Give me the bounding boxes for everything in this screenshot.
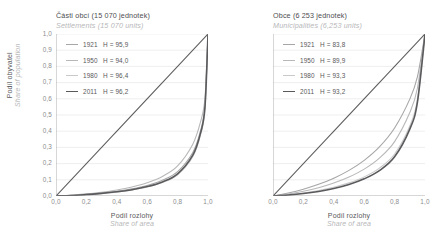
y-tick-label: 0,7 (36, 79, 52, 85)
y-tick-label: 0,6 (36, 96, 52, 102)
x-tick-label: 0,2 (294, 199, 312, 205)
x-axis-label-cs-left: Podíl rozlohy (56, 212, 208, 219)
legend-year-label: 2011 (300, 88, 320, 95)
y-axis-label-cs: Podíl obyvatel (6, 15, 13, 135)
legend-h-value: H = 94,0 (103, 57, 128, 64)
legend-item-1921: 1921H = 83,8 (283, 39, 393, 50)
legend-h-value: H = 96,2 (103, 88, 128, 95)
x-axis-ticks-right: 0,00,20,40,60,81,0 (273, 199, 425, 211)
x-axis-label-right: Podíl rozlohy Share of area (273, 212, 425, 227)
legend-year-label: 1950 (83, 57, 103, 64)
legend-item-1950: 1950H = 89,9 (283, 55, 393, 66)
x-axis-label-cs-right: Podíl rozlohy (273, 212, 425, 219)
legend-year-label: 1950 (300, 57, 320, 64)
legend-swatch-icon (66, 91, 78, 92)
x-tick-label: 1,0 (199, 199, 217, 205)
y-axis-ticks-left: 0,00,10,20,30,40,50,60,70,80,91,0 (32, 34, 52, 196)
lorenz-curve-figure: Části obcí (15 070 jednotek) Settlements… (0, 0, 434, 240)
legend-right: 1921H = 83,81950H = 89,91980H = 93,32011… (283, 39, 393, 101)
legend-swatch-icon (283, 44, 295, 45)
panel-settlements: Části obcí (15 070 jednotek) Settlements… (0, 0, 217, 240)
panel-title-en-right: Municipalities (6,253 units) (273, 21, 431, 30)
legend-swatch-icon (66, 44, 78, 45)
x-tick-label: 1,0 (416, 199, 434, 205)
legend-swatch-icon (283, 60, 295, 61)
panel-municipalities: Obce (6 253 jednotek) Municipalities (6,… (217, 0, 434, 240)
legend-year-label: 1980 (83, 72, 103, 79)
legend-h-value: H = 89,9 (320, 57, 345, 64)
x-tick-label: 0,4 (325, 199, 343, 205)
y-tick-label: 0,4 (36, 128, 52, 134)
x-tick-label: 0,0 (264, 199, 282, 205)
legend-swatch-icon (66, 75, 78, 76)
y-tick-label: 0,9 (36, 47, 52, 53)
y-tick-label: 0,2 (36, 160, 52, 166)
x-tick-label: 0,6 (355, 199, 373, 205)
legend-h-value: H = 95,9 (103, 41, 128, 48)
legend-left: 1921H = 95,91950H = 94,01980H = 96,42011… (66, 39, 176, 101)
x-tick-label: 0,2 (77, 199, 95, 205)
y-tick-label: 0,1 (36, 177, 52, 183)
panel-title-cs-right: Obce (6 253 jednotek) (273, 11, 431, 20)
y-axis-label-en: Share of population (13, 15, 20, 135)
legend-item-1980: 1980H = 93,3 (283, 70, 393, 81)
x-tick-label: 0,8 (386, 199, 404, 205)
legend-item-2011: 2011H = 93,2 (283, 86, 393, 97)
legend-item-1980: 1980H = 96,4 (66, 70, 176, 81)
y-tick-label: 0,8 (36, 63, 52, 69)
panel-title-en-left: Settlements (15 070 units) (56, 21, 214, 30)
panel-title-cs-left: Části obcí (15 070 jednotek) (56, 11, 214, 20)
x-tick-label: 0,0 (47, 199, 65, 205)
legend-swatch-icon (283, 91, 295, 92)
y-tick-label: 0,5 (36, 112, 52, 118)
x-tick-label: 0,6 (138, 199, 156, 205)
legend-item-2011: 2011H = 96,2 (66, 86, 176, 97)
x-axis-label-left: Podíl rozlohy Share of area (56, 212, 208, 227)
legend-year-label: 2011 (83, 88, 103, 95)
panel-title-block-right: Obce (6 253 jednotek) Municipalities (6,… (273, 11, 431, 30)
legend-item-1921: 1921H = 95,9 (66, 39, 176, 50)
x-axis-ticks-left: 0,00,20,40,60,81,0 (56, 199, 208, 211)
x-tick-label: 0,8 (169, 199, 187, 205)
panel-title-block-left: Části obcí (15 070 jednotek) Settlements… (56, 11, 214, 30)
y-tick-label: 0,3 (36, 144, 52, 150)
x-axis-label-en-right: Share of area (273, 220, 425, 227)
legend-swatch-icon (66, 60, 78, 61)
legend-swatch-icon (283, 75, 295, 76)
legend-year-label: 1921 (83, 41, 103, 48)
legend-item-1950: 1950H = 94,0 (66, 55, 176, 66)
x-tick-label: 0,4 (108, 199, 126, 205)
y-tick-label: 1,0 (36, 31, 52, 37)
legend-h-value: H = 93,2 (320, 88, 345, 95)
legend-h-value: H = 93,3 (320, 72, 345, 79)
legend-year-label: 1980 (300, 72, 320, 79)
y-axis-label-left: Podíl obyvatel Share of population (6, 15, 21, 135)
legend-h-value: H = 96,4 (103, 72, 128, 79)
legend-h-value: H = 83,8 (320, 41, 345, 48)
legend-year-label: 1921 (300, 41, 320, 48)
x-axis-label-en-left: Share of area (56, 220, 208, 227)
